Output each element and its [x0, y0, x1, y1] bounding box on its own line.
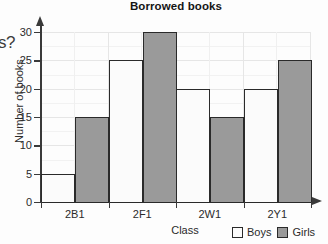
y-axis-arrow-icon — [36, 16, 44, 26]
x-axis-tick — [311, 202, 312, 208]
y-axis-tick — [34, 60, 40, 61]
bar-2b1-boys — [41, 174, 75, 203]
bar-2w1-boys — [176, 89, 210, 203]
x-axis-category-label-2w1: 2W1 — [175, 208, 245, 220]
y-axis-tick — [34, 89, 40, 90]
chart-figure: ¯ s? Borrowed books 051015202530 Number … — [0, 0, 328, 244]
bar-2b1-girls — [75, 117, 109, 203]
y-axis-tick — [34, 174, 40, 175]
legend-label-girls: Girls — [292, 226, 315, 238]
y-axis-tick — [34, 145, 40, 146]
bar-2y1-girls — [278, 60, 312, 203]
legend-item-boys: Boys — [232, 226, 271, 238]
bar-2y1-boys — [244, 89, 278, 203]
y-axis-tick-label: 5 — [10, 169, 32, 180]
x-axis-category-label-2b1: 2B1 — [40, 208, 110, 220]
y-axis-tick — [34, 117, 40, 118]
clipped-text-fragment-top: ¯ — [0, 0, 2, 10]
bar-2f1-girls — [143, 32, 177, 203]
y-axis-tick — [34, 32, 40, 33]
x-axis-category-label-2y1: 2Y1 — [242, 208, 312, 220]
y-axis-tick — [34, 202, 40, 203]
y-axis-tick-label: 0 — [10, 197, 32, 208]
legend-label-boys: Boys — [247, 226, 271, 238]
x-axis-arrow-icon — [312, 197, 322, 205]
bar-2w1-girls — [210, 117, 244, 203]
y-axis-title: Number of books — [13, 46, 25, 156]
y-axis-tick-label: 30 — [10, 27, 32, 38]
legend-swatch-boys-icon — [232, 227, 243, 238]
x-axis-category-label-2f1: 2F1 — [107, 208, 177, 220]
bar-2f1-boys — [109, 60, 143, 203]
legend-swatch-girls-icon — [277, 227, 288, 238]
chart-legend: Boys Girls — [232, 226, 315, 238]
legend-item-girls: Girls — [277, 226, 315, 238]
chart-title: Borrowed books — [110, 0, 242, 12]
x-axis-title: Class — [140, 224, 230, 236]
